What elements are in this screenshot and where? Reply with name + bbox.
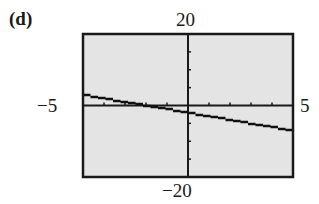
graph-screen	[0, 0, 319, 204]
